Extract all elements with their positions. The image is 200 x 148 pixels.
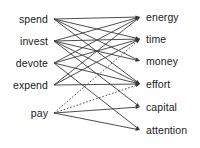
node-label-energy: energy bbox=[146, 12, 179, 23]
edge-spend-to-energy bbox=[54, 17, 136, 19]
edge-pay-to-effort bbox=[54, 85, 136, 113]
edges-group bbox=[54, 15, 140, 130]
edge-pay-to-capital bbox=[54, 107, 136, 113]
node-label-devote: devote bbox=[16, 58, 48, 69]
collocation-network-diagram: spendinvestdevoteexpendpay energytimemon… bbox=[0, 0, 200, 148]
node-label-spend: spend bbox=[19, 14, 48, 25]
edge-pay-to-attention bbox=[54, 113, 136, 129]
edge-expend-to-effort bbox=[54, 84, 136, 85]
edge-expend-to-time bbox=[54, 41, 136, 85]
node-label-effort: effort bbox=[146, 79, 170, 90]
node-label-invest: invest bbox=[20, 36, 48, 47]
node-label-expend: expend bbox=[13, 80, 48, 91]
node-label-money: money bbox=[146, 56, 178, 67]
node-label-pay: pay bbox=[31, 108, 48, 119]
node-label-capital: capital bbox=[146, 102, 177, 113]
node-label-attention: attention bbox=[146, 125, 187, 136]
arrowhead-icon-pay-to-effort bbox=[135, 84, 140, 87]
node-label-time: time bbox=[146, 34, 166, 45]
